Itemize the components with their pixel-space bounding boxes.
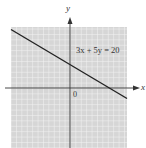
graph-area bbox=[0, 0, 146, 148]
equation-label: 3x + 5y = 20 bbox=[76, 45, 120, 55]
y-axis-label: y bbox=[66, 3, 70, 13]
x-axis-arrow-icon bbox=[133, 86, 140, 91]
y-axis-arrow-icon bbox=[68, 17, 73, 24]
origin-label: 0 bbox=[73, 90, 77, 99]
x-axis-label: x bbox=[141, 82, 145, 92]
